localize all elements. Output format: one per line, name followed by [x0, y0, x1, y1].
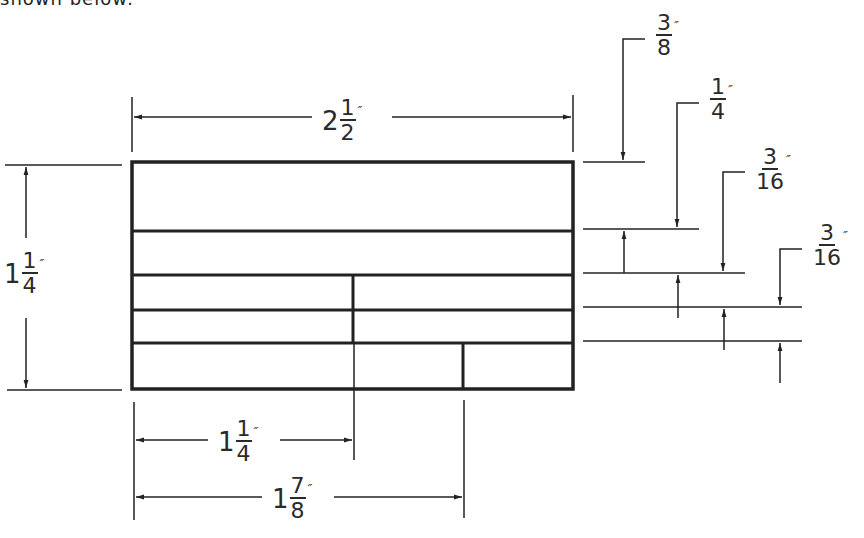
whole-number: 2	[322, 108, 339, 134]
whole-number: 1	[272, 486, 289, 512]
whole-number: 1	[218, 429, 235, 455]
column-divider-lines	[353, 275, 463, 389]
denominator: 4	[23, 274, 37, 297]
numerator: 1	[710, 76, 726, 100]
denominator: 8	[657, 36, 671, 59]
fraction: 316	[813, 222, 841, 269]
numerator: 3	[762, 146, 778, 170]
numerator: 1	[22, 250, 38, 274]
row-3-height-label: 316 ″	[751, 146, 795, 193]
denominator: 8	[291, 499, 305, 522]
numerator: 1	[340, 97, 356, 121]
inch-mark: ″	[728, 82, 733, 97]
fraction: 14	[710, 76, 726, 123]
height-dimension-label: 1 14 ″	[0, 250, 48, 297]
fraction: 14	[236, 418, 252, 465]
denominator: 4	[711, 100, 725, 123]
numerator: 3	[656, 12, 672, 36]
fraction: 78	[290, 475, 306, 522]
denominator: 16	[813, 246, 841, 269]
row-1-height-label: 38 ″	[651, 12, 683, 59]
inch-mark: ″	[786, 152, 791, 167]
row-4-height-label: 316 ″	[808, 222, 852, 269]
inch-mark: ″	[674, 18, 679, 33]
inch-mark: ″	[40, 256, 45, 271]
row-2-height-label: 14 ″	[705, 76, 737, 123]
denominator: 4	[237, 442, 251, 465]
width-dimension-label: 2 12 ″	[318, 97, 366, 144]
fraction: 14	[22, 250, 38, 297]
denominator: 16	[756, 170, 784, 193]
numerator: 3	[819, 222, 835, 246]
divider-2-dimension-label: 1 78 ″	[268, 475, 316, 522]
inch-mark: ″	[358, 103, 363, 118]
numerator: 1	[236, 418, 252, 442]
denominator: 2	[341, 121, 355, 144]
numerator: 7	[290, 475, 306, 499]
inch-mark: ″	[308, 481, 313, 496]
inch-mark: ″	[254, 424, 259, 439]
inch-mark: ″	[843, 228, 848, 243]
divider-1-dimension-label: 1 14 ″	[214, 418, 262, 465]
whole-number: 1	[4, 261, 21, 287]
fraction: 12	[340, 97, 356, 144]
fraction: 38	[656, 12, 672, 59]
fraction: 316	[756, 146, 784, 193]
